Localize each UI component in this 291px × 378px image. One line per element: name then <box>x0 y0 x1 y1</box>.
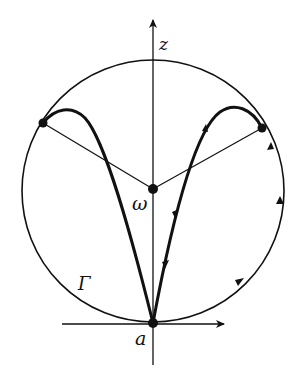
arrow-icon <box>276 196 284 204</box>
radius-left <box>43 123 153 189</box>
point-left-contact <box>39 119 48 128</box>
arrow-icon <box>235 278 244 286</box>
radius-right <box>153 128 262 189</box>
point-right-contact <box>258 124 267 133</box>
orbit-right-loop <box>153 107 262 323</box>
point-omega <box>148 184 158 194</box>
label-gamma: Γ <box>77 273 92 294</box>
point-a <box>148 318 158 328</box>
arrow-icon <box>267 142 274 150</box>
orbit-left-loop <box>43 110 153 323</box>
phase-diagram: z ω Γ a <box>0 0 291 378</box>
label-omega: ω <box>132 192 148 214</box>
label-a: a <box>135 327 146 349</box>
label-z: z <box>158 34 169 54</box>
